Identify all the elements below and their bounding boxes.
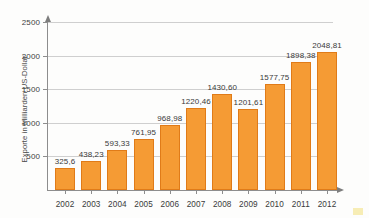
- x-axis-label: 2005: [134, 200, 153, 209]
- bar-value-label: 1577,75: [260, 73, 290, 82]
- x-axis-label: 2009: [239, 200, 258, 209]
- x-axis-label: 2007: [187, 200, 206, 209]
- bar-value-label: 761,95: [131, 128, 156, 137]
- y-axis-label: 500: [26, 152, 40, 161]
- corner-mark: [353, 208, 363, 215]
- x-axis-label: 2011: [292, 200, 310, 209]
- x-axis-label: 2006: [160, 200, 179, 209]
- bar-value-label: 1898,38: [286, 51, 316, 60]
- bar[interactable]: [291, 62, 311, 190]
- x-axis-tickmark: [327, 190, 328, 194]
- bar[interactable]: [212, 94, 232, 190]
- bar-value-label: 968,98: [157, 114, 182, 123]
- bar-value-label: 2048,81: [312, 41, 342, 50]
- x-axis-tickmark: [275, 190, 276, 194]
- y-axis-label: 1500: [22, 85, 40, 94]
- bar-value-label: 1430,60: [207, 83, 237, 92]
- bar-value-label: 325,6: [55, 157, 76, 166]
- bar-item[interactable]: 593,332004: [107, 14, 127, 190]
- x-axis-label: 2010: [265, 200, 284, 209]
- bar-item[interactable]: 968,982006: [160, 14, 180, 190]
- x-axis-tickmark: [248, 190, 249, 194]
- x-axis-tickmark: [170, 190, 171, 194]
- x-axis-tickmark: [222, 190, 223, 194]
- x-axis-label: 2008: [213, 200, 232, 209]
- y-axis-label: 2500: [22, 18, 40, 27]
- x-axis-arrow-icon: [337, 187, 344, 193]
- bar-value-label: 1201,61: [234, 98, 264, 107]
- x-axis-label: 2003: [82, 200, 101, 209]
- bar-value-label: 438,23: [79, 150, 104, 159]
- x-axis-label: 2004: [108, 200, 127, 209]
- bar[interactable]: [81, 161, 101, 190]
- bar-value-label: 593,33: [105, 139, 130, 148]
- bar-item[interactable]: 1220,462007: [186, 14, 206, 190]
- x-axis-tickmark: [117, 190, 118, 194]
- bar-chart: Exporte in Milliarden US-Dollar 50010001…: [0, 0, 369, 218]
- x-axis-label: 2002: [56, 200, 75, 209]
- x-axis-tickmark: [91, 190, 92, 194]
- bar-item[interactable]: 1898,382011: [291, 14, 311, 190]
- bar[interactable]: [55, 168, 75, 190]
- bar-item[interactable]: 325,62002: [55, 14, 75, 190]
- plot-area: 5001000150020002500 325,62002438,2320035…: [47, 14, 347, 190]
- bar-item[interactable]: 761,952005: [134, 14, 154, 190]
- bar-group: 325,62002438,232003593,332004761,9520059…: [48, 14, 338, 190]
- bar[interactable]: [238, 109, 258, 190]
- x-axis-tickmark: [301, 190, 302, 194]
- bar-item[interactable]: 1577,752010: [265, 14, 285, 190]
- bar-item[interactable]: 438,232003: [81, 14, 101, 190]
- y-axis-label: 2000: [22, 51, 40, 60]
- bar-item[interactable]: 2048,812012: [317, 14, 337, 190]
- y-axis-title: Exporte in Milliarden US-Dollar: [16, 0, 32, 218]
- x-axis-tickmark: [65, 190, 66, 194]
- bar-item[interactable]: 1201,612009: [238, 14, 258, 190]
- bar[interactable]: [186, 108, 206, 190]
- bar-value-label: 1220,46: [181, 97, 211, 106]
- bar[interactable]: [160, 125, 180, 190]
- x-axis-tickmark: [144, 190, 145, 194]
- bar[interactable]: [265, 84, 285, 190]
- bar-item[interactable]: 1430,602008: [212, 14, 232, 190]
- bar[interactable]: [107, 150, 127, 190]
- x-axis-tickmark: [196, 190, 197, 194]
- bar[interactable]: [317, 52, 337, 190]
- y-axis-label: 1000: [22, 118, 40, 127]
- x-axis-label: 2012: [318, 200, 337, 209]
- bar[interactable]: [134, 139, 154, 190]
